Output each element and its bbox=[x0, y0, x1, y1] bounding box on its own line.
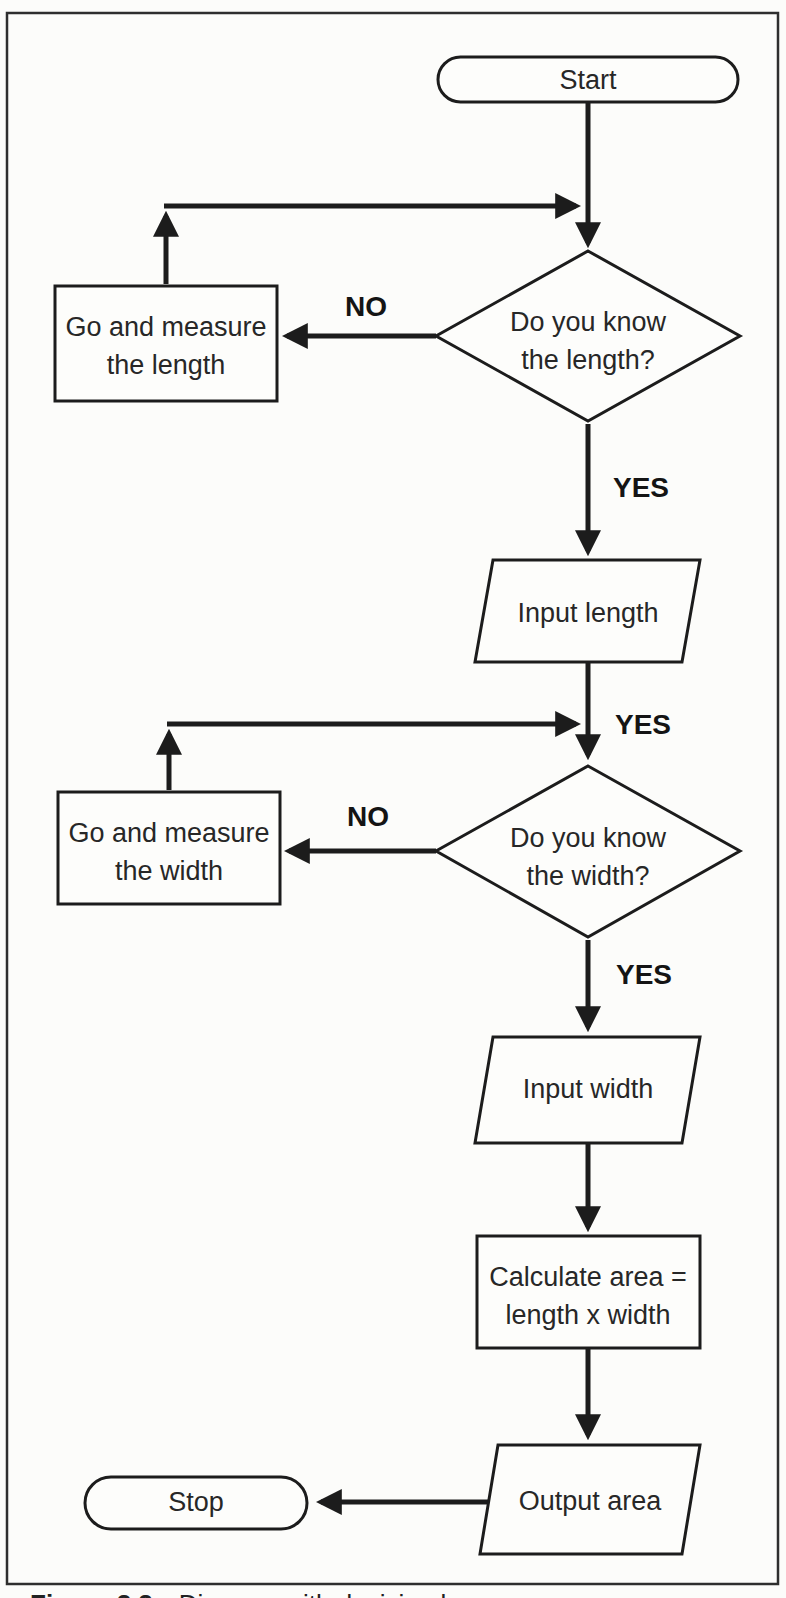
node-input-length: Input length bbox=[475, 560, 700, 662]
measure-length-box-shape bbox=[55, 286, 277, 401]
node-measure-length: Go and measure the length bbox=[55, 286, 277, 401]
edge-label-no-width: NO bbox=[347, 801, 389, 832]
stop-label: Stop bbox=[168, 1487, 224, 1517]
measure-width-line1: Go and measure bbox=[68, 818, 269, 848]
node-stop: Stop bbox=[85, 1477, 307, 1529]
figure-caption-text: Diagram with decision boxes bbox=[179, 1589, 510, 1598]
decision-length-line1: Do you know bbox=[510, 307, 667, 337]
measure-length-line1: Go and measure bbox=[65, 312, 266, 342]
measure-width-line2: the width bbox=[115, 856, 223, 886]
node-start: Start bbox=[438, 57, 738, 102]
measure-length-line2: the length bbox=[107, 350, 226, 380]
edge-label-no-length: NO bbox=[345, 291, 387, 322]
figure-caption-number: Figure 2.2 bbox=[30, 1589, 153, 1598]
node-calculate-area: Calculate area = length x width bbox=[477, 1236, 700, 1348]
decision-width-line1: Do you know bbox=[510, 823, 667, 853]
input-length-label: Input length bbox=[517, 598, 658, 628]
calculate-area-box-shape bbox=[477, 1236, 700, 1348]
node-measure-width: Go and measure the width bbox=[58, 792, 280, 904]
node-decision-width: Do you know the width? bbox=[436, 766, 740, 937]
input-width-label: Input width bbox=[523, 1074, 654, 1104]
measure-width-box-shape bbox=[58, 792, 280, 904]
flowchart-canvas: Start Do you know the length? Go and mea… bbox=[0, 0, 786, 1598]
start-label: Start bbox=[559, 65, 617, 95]
edge-label-yes-width: YES bbox=[616, 959, 672, 990]
edge-label-yes-length: YES bbox=[613, 472, 669, 503]
calculate-area-line1: Calculate area = bbox=[489, 1262, 686, 1292]
scanned-page: Start Do you know the length? Go and mea… bbox=[0, 0, 786, 1598]
calculate-area-line2: length x width bbox=[505, 1300, 670, 1330]
decision-length-line2: the length? bbox=[521, 345, 655, 375]
decision-width-line2: the width? bbox=[526, 861, 649, 891]
node-input-width: Input width bbox=[475, 1037, 700, 1143]
figure-caption: Figure 2.2Diagram with decision boxes bbox=[30, 1589, 750, 1598]
node-decision-length: Do you know the length? bbox=[436, 251, 740, 421]
edge-label-yes-junction: YES bbox=[615, 709, 671, 740]
node-output-area: Output area bbox=[480, 1445, 700, 1554]
output-area-label: Output area bbox=[519, 1486, 663, 1516]
